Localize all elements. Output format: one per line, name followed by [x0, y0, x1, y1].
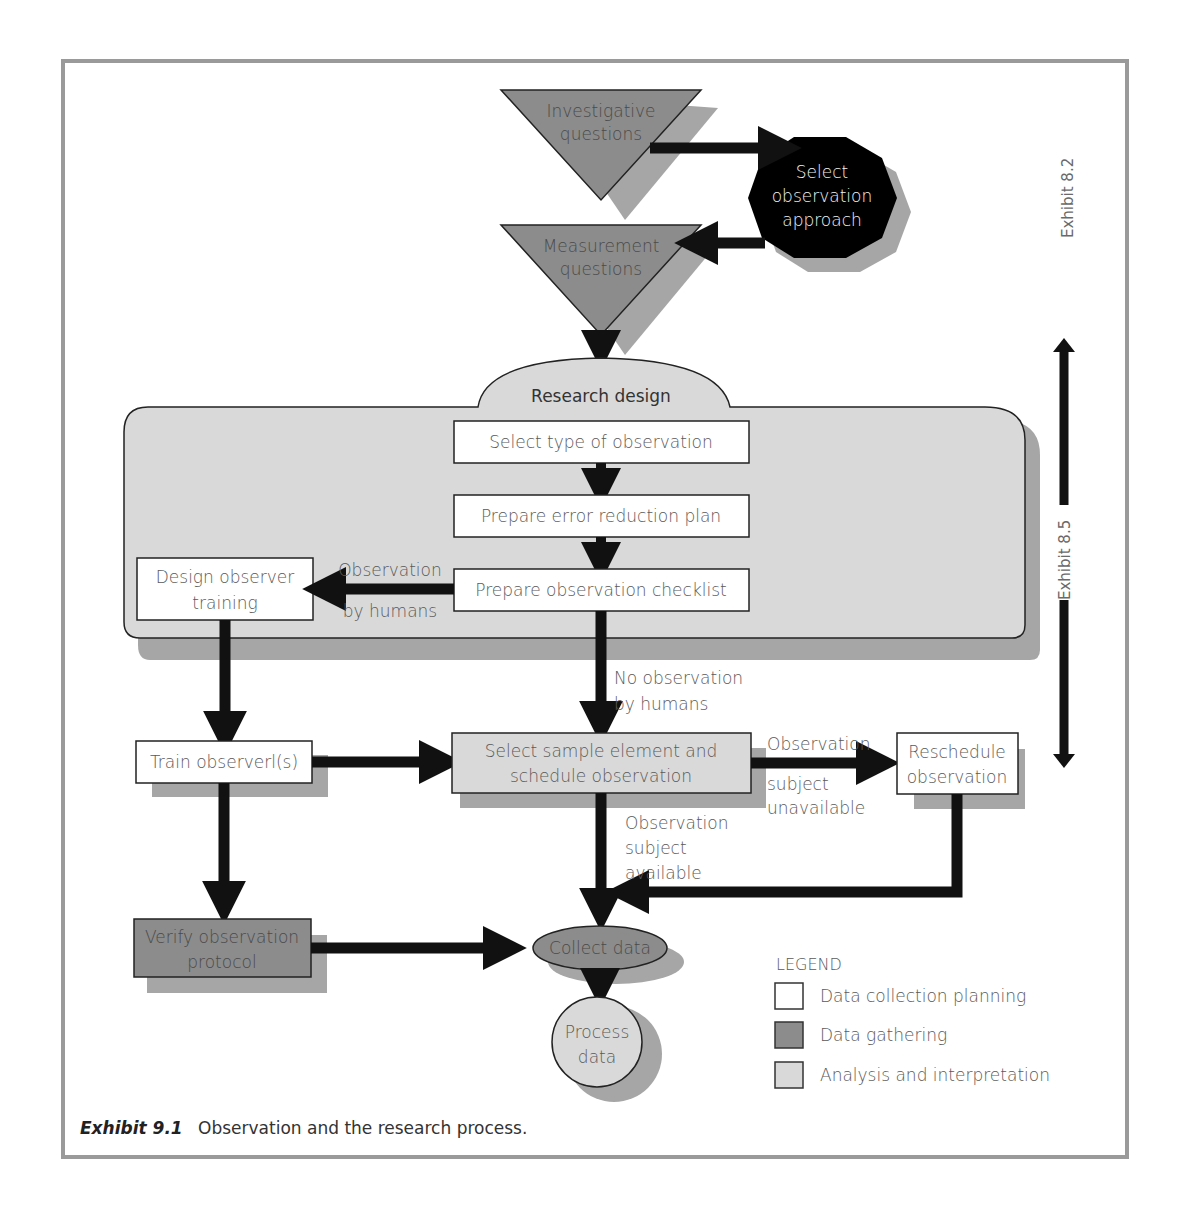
node-label: questions: [560, 124, 642, 144]
caption-label: Exhibit 9.1: [80, 1118, 183, 1138]
edge-label-subject-unavailable: unavailable: [767, 798, 865, 818]
node-label: questions: [560, 259, 642, 279]
select-type-of-observation-node: Select type of observation: [454, 421, 749, 463]
node-label: protocol: [187, 952, 256, 972]
legend-label: Data gathering: [820, 1025, 947, 1045]
node-label: schedule observation: [510, 766, 692, 786]
edge-label-subject-available: Observation: [625, 813, 729, 833]
edge-label-subject-available: available: [625, 863, 702, 883]
exhibit-8-5-reference: Exhibit 8.5: [1056, 520, 1074, 600]
node-label: Reschedule: [908, 742, 1006, 762]
verify-observation-protocol-node: Verify observation protocol: [134, 919, 327, 993]
caption-text: Observation and the research process.: [198, 1118, 527, 1138]
node-label: Select: [796, 162, 848, 182]
edge-label-observation-by-humans: by humans: [343, 601, 437, 621]
select-sample-element-node: Select sample element and schedule obser…: [452, 733, 766, 808]
legend-swatch-analysis: [775, 1062, 803, 1088]
node-label: Prepare error reduction plan: [481, 506, 721, 526]
node-label: Prepare observation checklist: [475, 580, 726, 600]
edge-label-no-observation: No observation: [614, 668, 743, 688]
node-label: training: [192, 593, 257, 613]
legend-swatch-planning: [775, 983, 803, 1009]
node-label: Select type of observation: [489, 432, 713, 452]
legend-label: Analysis and interpretation: [820, 1065, 1050, 1085]
node-label: Select sample element and: [485, 741, 718, 761]
edge-label-observation-by-humans: Observation: [338, 560, 442, 580]
edge-label-subject-available: subject: [625, 838, 687, 858]
node-label: approach: [782, 210, 862, 230]
legend-swatch-gathering: [775, 1022, 803, 1048]
node-label: Train observerl(s): [150, 752, 298, 772]
edge-label-subject-unavailable: subject: [767, 774, 829, 794]
node-label: Process: [565, 1022, 630, 1042]
exhibit-8-2-reference: Exhibit 8.2: [1059, 158, 1077, 238]
figure-exhibit-9-1: Investigative questions Measurement ques…: [0, 0, 1194, 1227]
design-observer-training-node: Design observer training: [137, 558, 313, 620]
node-label: Investigative: [546, 101, 655, 121]
node-label: observation: [772, 186, 873, 206]
legend-title: LEGEND: [776, 955, 842, 974]
node-label: data: [578, 1047, 616, 1067]
research-design-title: Research design: [531, 386, 671, 406]
edge-label-subject-unavailable: Observation: [767, 734, 871, 754]
legend-label: Data collection planning: [820, 986, 1026, 1006]
node-label: Collect data: [549, 938, 651, 958]
figure-caption: Exhibit 9.1 Observation and the research…: [80, 1118, 527, 1138]
node-label: Design observer: [156, 567, 295, 587]
prepare-error-reduction-plan-node: Prepare error reduction plan: [454, 495, 749, 537]
edge-label-no-observation: by humans: [614, 694, 708, 714]
train-observers-node: Train observerl(s): [136, 741, 328, 797]
node-label: observation: [907, 767, 1008, 787]
prepare-observation-checklist-node: Prepare observation checklist: [454, 569, 749, 611]
node-label: Verify observation: [145, 927, 299, 947]
node-label: Measurement: [543, 236, 660, 256]
